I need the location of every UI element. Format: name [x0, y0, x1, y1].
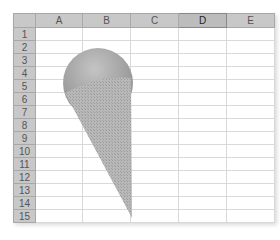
cell[interactable]	[227, 171, 275, 184]
cell[interactable]	[227, 41, 275, 54]
cell[interactable]	[36, 80, 83, 93]
cell[interactable]	[179, 210, 227, 223]
column-header-e[interactable]: E	[227, 14, 275, 28]
cell[interactable]	[227, 54, 275, 67]
cell[interactable]	[227, 93, 275, 106]
column-header-a[interactable]: A	[36, 14, 83, 28]
cell[interactable]	[227, 210, 275, 223]
cell[interactable]	[36, 54, 83, 67]
cell[interactable]	[131, 184, 179, 197]
cell[interactable]	[83, 93, 131, 106]
cell[interactable]	[36, 210, 83, 223]
cell[interactable]	[131, 197, 179, 210]
cell[interactable]	[179, 80, 227, 93]
row-header[interactable]: 14	[14, 197, 36, 210]
cell[interactable]	[131, 132, 179, 145]
cell[interactable]	[83, 41, 131, 54]
cell[interactable]	[36, 145, 83, 158]
cell[interactable]	[179, 54, 227, 67]
cell[interactable]	[131, 106, 179, 119]
cell[interactable]	[179, 119, 227, 132]
cell[interactable]	[131, 67, 179, 80]
cell[interactable]	[227, 106, 275, 119]
cell[interactable]	[179, 41, 227, 54]
cell[interactable]	[36, 171, 83, 184]
table-row: 8	[14, 119, 275, 132]
row-header[interactable]: 13	[14, 184, 36, 197]
cell[interactable]	[227, 80, 275, 93]
cell[interactable]	[227, 28, 275, 41]
cell[interactable]	[83, 197, 131, 210]
cell[interactable]	[131, 145, 179, 158]
row-header[interactable]: 2	[14, 41, 36, 54]
cell[interactable]	[36, 41, 83, 54]
cell[interactable]	[227, 184, 275, 197]
row-header[interactable]: 7	[14, 106, 36, 119]
cell[interactable]	[83, 28, 131, 41]
cell[interactable]	[36, 119, 83, 132]
cell[interactable]	[131, 41, 179, 54]
cell[interactable]	[227, 145, 275, 158]
cell[interactable]	[36, 93, 83, 106]
cell[interactable]	[83, 119, 131, 132]
column-header-c[interactable]: C	[131, 14, 179, 28]
cell[interactable]	[36, 28, 83, 41]
row-header[interactable]: 11	[14, 158, 36, 171]
column-header-b[interactable]: B	[83, 14, 131, 28]
cell[interactable]	[36, 184, 83, 197]
row-header[interactable]: 6	[14, 93, 36, 106]
cell[interactable]	[36, 158, 83, 171]
row-header[interactable]: 3	[14, 54, 36, 67]
table-row: 12	[14, 171, 275, 184]
cell[interactable]	[131, 80, 179, 93]
cell[interactable]	[131, 171, 179, 184]
cell[interactable]	[179, 132, 227, 145]
row-header[interactable]: 4	[14, 67, 36, 80]
cell[interactable]	[227, 119, 275, 132]
cell[interactable]	[83, 132, 131, 145]
row-header[interactable]: 10	[14, 145, 36, 158]
cell[interactable]	[131, 210, 179, 223]
cell[interactable]	[36, 106, 83, 119]
cell[interactable]	[179, 158, 227, 171]
cell[interactable]	[83, 67, 131, 80]
row-header[interactable]: 15	[14, 210, 36, 223]
cell[interactable]	[179, 106, 227, 119]
cell[interactable]	[227, 132, 275, 145]
cell[interactable]	[83, 54, 131, 67]
cell[interactable]	[179, 145, 227, 158]
cell[interactable]	[83, 210, 131, 223]
cell[interactable]	[131, 158, 179, 171]
row-header[interactable]: 5	[14, 80, 36, 93]
cell[interactable]	[179, 197, 227, 210]
row-header[interactable]: 9	[14, 132, 36, 145]
cell[interactable]	[83, 145, 131, 158]
cell[interactable]	[179, 93, 227, 106]
column-header-d[interactable]: D	[179, 14, 227, 28]
cell[interactable]	[179, 28, 227, 41]
cell[interactable]	[36, 67, 83, 80]
cell[interactable]	[179, 67, 227, 80]
cell-grid: A B C D E 123456789101112131415	[13, 13, 275, 223]
cell[interactable]	[131, 93, 179, 106]
row-header[interactable]: 8	[14, 119, 36, 132]
cell[interactable]	[83, 184, 131, 197]
cell[interactable]	[131, 119, 179, 132]
select-all-corner[interactable]	[14, 14, 36, 28]
cell[interactable]	[179, 184, 227, 197]
cell[interactable]	[36, 197, 83, 210]
cell[interactable]	[131, 54, 179, 67]
cell[interactable]	[83, 106, 131, 119]
cell[interactable]	[83, 158, 131, 171]
row-header[interactable]: 1	[14, 28, 36, 41]
cell[interactable]	[227, 67, 275, 80]
cell[interactable]	[179, 171, 227, 184]
cell[interactable]	[227, 158, 275, 171]
cell[interactable]	[131, 28, 179, 41]
cell[interactable]	[83, 80, 131, 93]
row-header[interactable]: 12	[14, 171, 36, 184]
cell[interactable]	[227, 197, 275, 210]
table-row: 5	[14, 80, 275, 93]
cell[interactable]	[83, 171, 131, 184]
cell[interactable]	[36, 132, 83, 145]
